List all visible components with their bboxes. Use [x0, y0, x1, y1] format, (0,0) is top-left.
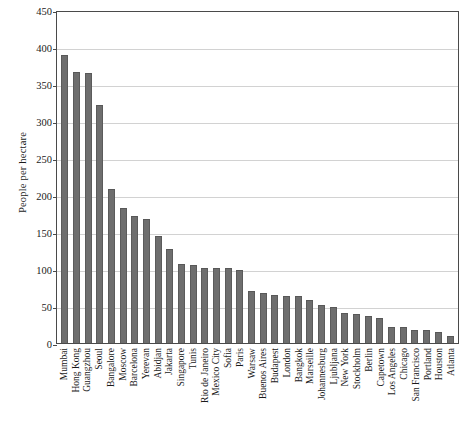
bar — [365, 316, 372, 343]
y-axis-tick-label: 250 — [36, 154, 52, 165]
x-axis-tick-label: Rio de Janeiro — [200, 348, 210, 403]
x-axis-tick-label: San Francisco — [411, 348, 421, 402]
plot-area — [56, 11, 459, 344]
x-axis-tick-label: Yerevan — [141, 348, 151, 379]
bar-slot — [409, 12, 421, 343]
x-axis-tick-label: Capetown — [376, 348, 386, 387]
bar-group — [57, 12, 458, 343]
x-axis-label-slot: London — [281, 346, 293, 425]
x-axis-tick-label: London — [282, 348, 292, 378]
x-axis-tick-label: Johannesburg — [317, 348, 327, 400]
x-axis-label-slot: Mexico City — [211, 346, 223, 425]
bar — [423, 330, 430, 343]
x-axis-label-slot: Yerevan — [140, 346, 152, 425]
y-axis-tick-label: 100 — [36, 265, 52, 276]
x-axis-tick-label: Buenos Aires — [258, 348, 268, 399]
x-axis-tick-label: Ljubljana — [329, 348, 339, 384]
bar — [108, 189, 115, 343]
x-axis-label-slot: Paris — [234, 346, 246, 425]
bar — [166, 249, 173, 343]
bar-slot — [339, 12, 351, 343]
bar-slot — [397, 12, 409, 343]
y-axis-tick-label: 450 — [36, 6, 52, 17]
x-axis-tick-label: Warsaw — [247, 348, 257, 378]
y-axis-tick-label: 400 — [36, 43, 52, 54]
bar — [178, 264, 185, 343]
x-axis-tick-label: Seoul — [94, 348, 104, 370]
bar — [96, 105, 103, 343]
bar-slot — [129, 12, 141, 343]
x-axis-label-slot: Buenos Aires — [257, 346, 269, 425]
y-axis-tick-labels: 050100150200250300350400450 — [0, 0, 56, 425]
x-axis-label-slot: Moscow — [117, 346, 129, 425]
bar-chart-figure: People per hectare 050100150200250300350… — [0, 0, 473, 425]
x-axis-label-slot: Los Angeles — [387, 346, 399, 425]
x-axis-tick-label: Budapest — [270, 348, 280, 383]
x-axis-label-slot: Bangkok — [293, 346, 305, 425]
bar — [85, 73, 92, 343]
bar — [120, 208, 127, 343]
x-axis-tick-label: Portland — [423, 348, 433, 380]
x-axis-tick-label: Singapore — [176, 348, 186, 387]
bar-slot — [281, 12, 293, 343]
x-axis-tick-label: Tunis — [188, 348, 198, 369]
bar-slot — [59, 12, 71, 343]
bar — [318, 305, 325, 343]
x-axis-tick-label: Chicago — [399, 348, 409, 380]
x-axis-label-slot: Jakarta — [164, 346, 176, 425]
bar — [201, 268, 208, 343]
y-axis-tick-label: 350 — [36, 80, 52, 91]
bar-slot — [316, 12, 328, 343]
x-axis-tick-label: Berlin — [364, 348, 374, 372]
x-axis-label-slot: Seoul — [93, 346, 105, 425]
bar — [225, 268, 232, 343]
x-axis-tick-label: Houston — [434, 348, 444, 380]
x-axis-label-slot: Berlin — [363, 346, 375, 425]
bar-slot — [117, 12, 129, 343]
bar-slot — [71, 12, 83, 343]
x-axis-tick-label: Mumbai — [59, 348, 69, 380]
x-axis-tick-label: Bangalore — [106, 348, 116, 387]
bar-slot — [199, 12, 211, 343]
bar — [330, 307, 337, 343]
bar — [248, 291, 255, 343]
bar — [236, 270, 243, 343]
x-axis-tick-label: Abidjan — [153, 348, 163, 379]
y-axis-tick-label: 0 — [47, 339, 52, 350]
bar — [143, 219, 150, 343]
x-axis-label-slot: Budapest — [269, 346, 281, 425]
bar — [283, 296, 290, 343]
bar-slot — [234, 12, 246, 343]
x-axis-tick-label: Bangkok — [294, 348, 304, 382]
bar — [295, 296, 302, 343]
bar-slot — [222, 12, 234, 343]
bar — [131, 216, 138, 343]
bar-slot — [327, 12, 339, 343]
bar — [271, 295, 278, 343]
x-axis-label-slot: Barcelona — [128, 346, 140, 425]
x-axis-label-slot: Atlanta — [445, 346, 457, 425]
x-axis-label-slot: San Francisco — [410, 346, 422, 425]
bar — [447, 336, 454, 343]
x-axis-tick-label: Sofia — [223, 348, 233, 368]
bar-slot — [269, 12, 281, 343]
x-axis-label-slot: Chicago — [398, 346, 410, 425]
y-axis-tick-label: 300 — [36, 117, 52, 128]
x-axis-label-slot: Singapore — [175, 346, 187, 425]
bar-slot — [211, 12, 223, 343]
x-axis-tick-label: Hong Kong — [71, 348, 81, 393]
x-axis-label-slot: Johannesburg — [316, 346, 328, 425]
x-axis-label-slot: Houston — [434, 346, 446, 425]
x-axis-label-slot: Tunis — [187, 346, 199, 425]
bar — [306, 300, 313, 343]
x-axis-tick-label: Los Angeles — [387, 348, 397, 395]
x-axis-tick-label: New York — [340, 348, 350, 387]
bar — [411, 330, 418, 343]
x-axis-label-slot: Capetown — [375, 346, 387, 425]
x-axis-label-slot: Warsaw — [246, 346, 258, 425]
bar-slot — [351, 12, 363, 343]
bar-slot — [187, 12, 199, 343]
bar-slot — [421, 12, 433, 343]
x-axis-tick-label: Atlanta — [446, 348, 456, 376]
bar-slot — [304, 12, 316, 343]
